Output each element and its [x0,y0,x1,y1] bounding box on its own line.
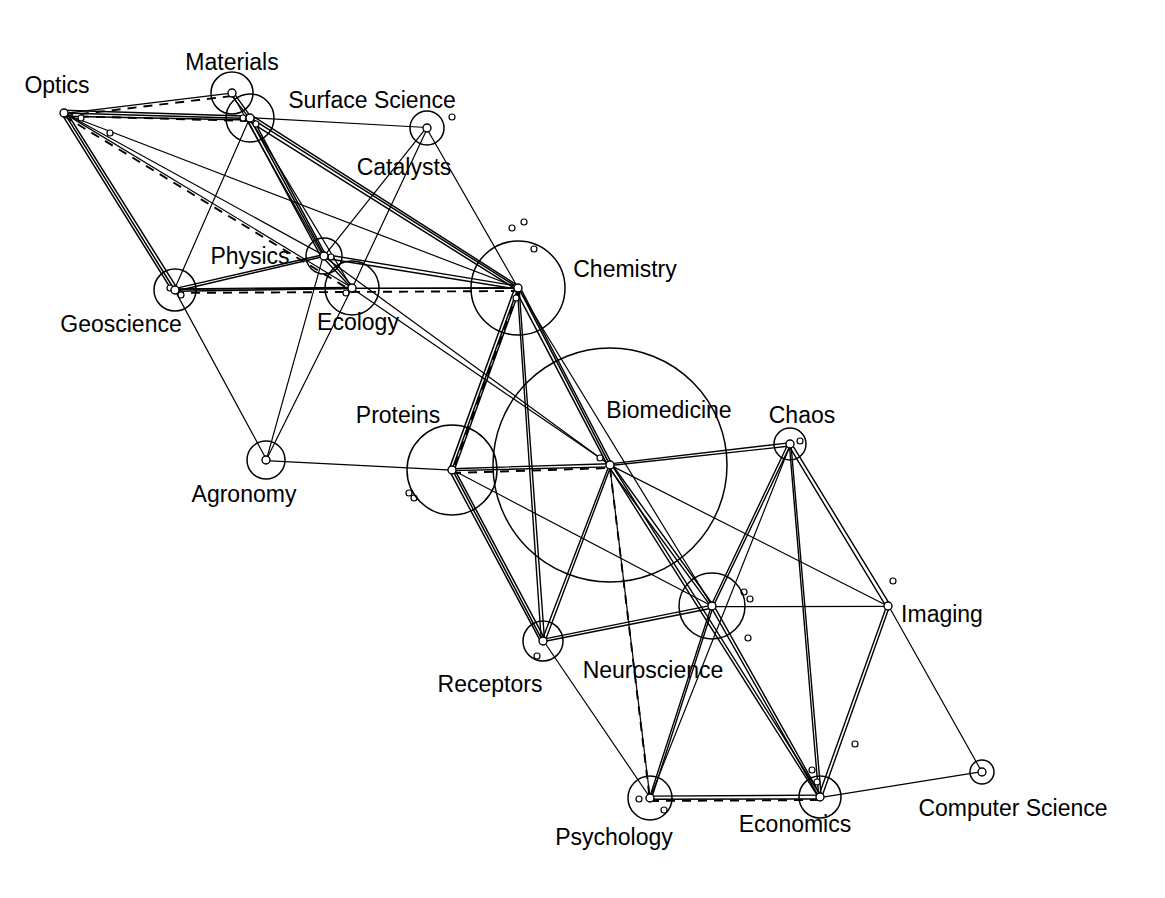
satellite-point [852,741,858,747]
node-label-physics: Physics [210,243,289,269]
node-biomedicine[interactable] [493,348,727,582]
edge-chaos-neuroscience [713,444,791,607]
node-dot-proteins[interactable] [448,466,456,474]
node-dot-surface[interactable] [246,114,254,122]
edge-agronomy-proteins [265,461,451,471]
node-dot-neuroscience[interactable] [708,602,716,610]
node-dot-biomedicine[interactable] [606,461,614,469]
satellite-point [745,635,751,641]
node-dot-agronomy[interactable] [262,456,270,464]
edge-chaos-psychology [650,445,790,798]
satellite-point [531,246,537,252]
satellite-point [534,653,540,659]
node-label-optics: Optics [24,72,89,98]
edge-materials-surface [230,94,249,118]
node-labels-layer: OpticsMaterialsSurface ScienceCatalystsP… [24,49,1107,850]
satellite-point [509,225,515,231]
node-label-biomedicine: Biomedicine [606,397,731,423]
edge-catalysts-chemistry [426,128,518,288]
edge-optics-geoscience [66,112,177,288]
science-map-diagram: OpticsMaterialsSurface ScienceCatalystsP… [0,0,1165,898]
node-label-surface: Surface Science [288,87,455,113]
edge-biomedicine-economics [608,465,818,797]
edge-chemistry-proteins [452,287,518,469]
node-label-materials: Materials [185,49,278,75]
network-canvas[interactable]: OpticsMaterialsSurface ScienceCatalystsP… [0,0,1165,898]
node-label-receptors: Receptors [438,671,543,697]
edge-biomedicine-neuroscience [611,464,714,606]
edge-biomedicine-receptors [542,465,609,640]
node-label-psychology: Psychology [555,824,673,850]
edge-biomedicine-chaos [610,443,790,464]
edge-catalysts-physics [324,128,427,257]
edge-optics-geoscience [62,114,173,292]
edge-biomedicine-receptors [545,466,611,642]
satellite-point [78,115,84,121]
edge-chemistry-proteins [454,289,520,471]
satellite-point [107,130,113,136]
node-dot-receptors[interactable] [539,637,547,645]
node-catalysts[interactable] [410,111,444,145]
node-label-catalysts: Catalysts [357,154,452,180]
node-label-chaos: Chaos [769,402,835,428]
satellite-point [521,219,527,225]
node-dot-chaos[interactable] [786,440,794,448]
node-dot-economics[interactable] [816,793,824,801]
node-optics[interactable] [60,109,68,117]
edge-physics-agronomy [267,256,324,459]
edge-imaging-economics [819,606,887,796]
node-dot-imaging[interactable] [884,602,892,610]
dashed-edge-psychology-economics [650,800,820,801]
edge-proteins-receptors [450,471,541,642]
satellite-point [597,455,603,461]
node-dot-ecology[interactable] [348,284,356,292]
node-dot-physics[interactable] [320,252,328,260]
satellite-point [809,767,815,773]
satellite-point [343,290,349,296]
node-agronomy[interactable] [247,441,285,479]
node-label-agronomy: Agronomy [192,481,297,507]
edge-chaos-economics [791,445,821,797]
edge-imaging-compsci [888,606,981,772]
node-label-neuroscience: Neuroscience [583,657,724,683]
node-imaging[interactable] [884,602,892,610]
satellite-point [406,490,412,496]
edge-chemistry-biomedicine [518,287,609,465]
edge-economics-compsci [820,772,982,798]
satellite-point [814,779,820,785]
satellite-point [328,254,334,260]
satellite-point [513,295,519,301]
node-label-compsci: Computer Science [918,795,1107,821]
edge-biomedicine-chaos [610,446,790,465]
satellite-point [449,114,455,120]
satellite-points-layer [78,114,896,813]
node-label-chemistry: Chemistry [573,256,677,282]
node-compsci[interactable] [970,760,994,784]
edge-chemistry-biomedicine [515,289,608,466]
node-label-economics: Economics [739,811,851,837]
edge-geoscience-agronomy [175,291,267,460]
satellite-point [178,292,184,298]
edge-optics-geoscience [64,113,174,290]
node-materials[interactable] [211,72,253,114]
node-geoscience[interactable] [154,269,196,311]
satellite-point [747,596,753,602]
edge-neuroscience-psychology [649,606,711,798]
edge-optics-ecology [63,113,352,288]
node-dot-catalysts[interactable] [423,124,431,132]
edge-biomedicine-imaging [609,465,888,607]
node-psychology[interactable] [628,776,672,820]
node-dot-geoscience[interactable] [171,286,179,294]
node-dot-psychology[interactable] [646,794,654,802]
node-dot-chemistry[interactable] [514,284,522,292]
edge-imaging-economics [822,606,890,797]
node-dot-compsci[interactable] [978,768,986,776]
edge-surface-catalysts [250,118,427,128]
node-dot-optics[interactable] [60,109,68,117]
satellite-point [240,115,246,121]
satellite-point [636,796,642,802]
node-label-imaging: Imaging [901,601,983,627]
dashed-edge-chemistry-proteins [452,291,518,473]
node-dot-materials[interactable] [228,89,236,97]
satellite-point [797,438,803,444]
